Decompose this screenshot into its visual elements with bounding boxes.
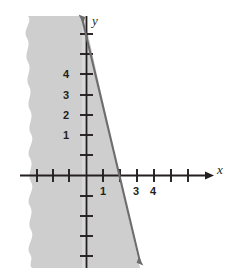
x-axis-arrow-icon — [205, 172, 214, 180]
y-axis-label: y — [92, 14, 98, 27]
coordinate-plane-svg — [0, 0, 229, 277]
x-tick-label-3: 3 — [133, 186, 139, 197]
y-tick-label-4: 4 — [63, 69, 69, 80]
x-tick-label-1: 1 — [100, 186, 106, 197]
y-tick-label-3: 3 — [63, 90, 69, 101]
x-axis-label: x — [217, 163, 223, 176]
y-tick-label-2: 2 — [63, 110, 69, 121]
y-tick-label-1: 1 — [63, 130, 69, 141]
graph-figure: 4 3 2 1 1 3 4 y x — [0, 0, 229, 277]
x-tick-label-4: 4 — [150, 186, 156, 197]
